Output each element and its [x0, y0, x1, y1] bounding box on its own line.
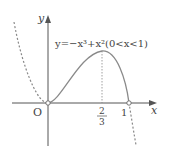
dashed-extension-right [129, 103, 136, 145]
y-axis-arrow-icon [45, 15, 51, 23]
tick-one: 1 [121, 107, 127, 118]
tick-two-thirds-numerator: 2 [99, 106, 105, 116]
equation-label: y=−x³+x²(0<x<1) [54, 38, 148, 49]
function-graph: y x O y=−x³+x²(0<x<1) 2 3 1 [0, 0, 181, 152]
function-curve [48, 51, 129, 103]
open-point-origin [46, 101, 50, 105]
open-point-one [127, 101, 131, 105]
y-axis-label: y [37, 12, 45, 25]
x-axis-label: x [151, 104, 158, 117]
origin-label: O [33, 106, 42, 119]
dashed-extension-left [14, 22, 48, 103]
tick-two-thirds-denominator: 3 [99, 117, 105, 127]
